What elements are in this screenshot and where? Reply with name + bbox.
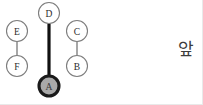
node-b-label: B (74, 62, 80, 72)
node-e-label: E (14, 27, 20, 37)
node-f[interactable]: F (7, 56, 28, 77)
node-e[interactable]: E (7, 21, 28, 42)
diagram-canvas: D E C F B A 앞 (0, 0, 203, 105)
caption-text: 앞 (178, 40, 194, 59)
node-c-label: C (74, 27, 80, 37)
graph-svg: D E C F B A (0, 0, 203, 105)
node-layer: D E C F B A (7, 3, 88, 97)
node-d-label: D (46, 9, 53, 19)
node-a-label: A (46, 82, 53, 92)
node-b[interactable]: B (67, 56, 88, 77)
node-c[interactable]: C (67, 21, 88, 42)
node-d[interactable]: D (39, 3, 60, 24)
node-a[interactable]: A (39, 76, 59, 96)
node-f-label: F (14, 62, 19, 72)
